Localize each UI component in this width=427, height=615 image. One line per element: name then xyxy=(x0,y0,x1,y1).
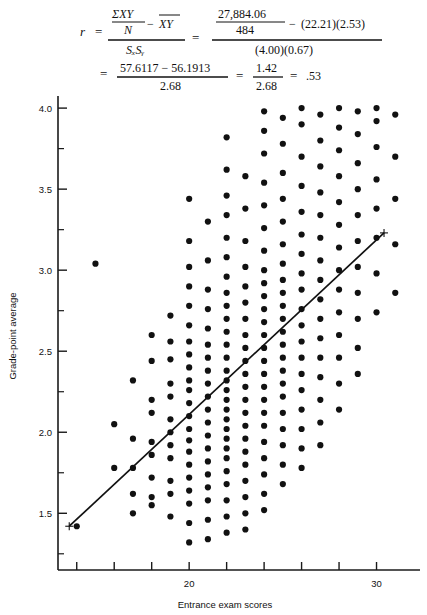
data-point xyxy=(355,238,361,244)
data-point xyxy=(261,128,267,134)
data-point xyxy=(392,241,398,247)
data-point xyxy=(242,423,248,429)
formula-numerator-expr: 57.6117 − 56.1913 xyxy=(120,61,210,75)
data-point xyxy=(149,502,155,508)
data-point xyxy=(242,264,248,270)
data-point xyxy=(298,322,304,328)
data-point xyxy=(317,316,323,322)
data-point xyxy=(280,303,286,309)
data-point xyxy=(261,108,267,114)
data-point xyxy=(336,332,342,338)
y-tick-label: 2.0 xyxy=(39,427,52,438)
data-point xyxy=(205,536,211,542)
data-point xyxy=(280,393,286,399)
data-point xyxy=(242,283,248,289)
data-point xyxy=(355,108,361,114)
data-point xyxy=(205,517,211,523)
formula-sum-xy: ΣXY xyxy=(111,7,134,21)
data-point xyxy=(149,397,155,403)
data-point xyxy=(280,410,286,416)
data-point xyxy=(186,283,192,289)
data-point xyxy=(111,465,117,471)
data-point xyxy=(242,410,248,416)
data-point xyxy=(355,186,361,192)
data-point xyxy=(317,189,323,195)
data-point xyxy=(280,141,286,147)
data-point xyxy=(205,355,211,361)
data-point xyxy=(149,452,155,458)
data-point xyxy=(242,526,248,532)
formula-minus-1: − xyxy=(147,17,154,31)
data-point xyxy=(317,277,323,283)
data-point xyxy=(317,111,323,117)
data-point xyxy=(317,397,323,403)
data-point xyxy=(130,436,136,442)
data-point xyxy=(186,364,192,370)
data-point xyxy=(224,329,230,335)
data-point xyxy=(261,180,267,186)
data-point xyxy=(280,442,286,448)
data-point xyxy=(392,196,398,202)
formula-equals-4: = xyxy=(236,68,243,83)
data-point xyxy=(261,267,267,273)
y-tick-label: 2.5 xyxy=(39,346,52,357)
data-point xyxy=(224,416,230,422)
data-point xyxy=(298,445,304,451)
data-point xyxy=(167,338,173,344)
data-point xyxy=(149,475,155,481)
axes-layer xyxy=(58,96,420,570)
data-point xyxy=(224,274,230,280)
data-point xyxy=(280,316,286,322)
data-point xyxy=(242,494,248,500)
data-point xyxy=(373,118,379,124)
data-point xyxy=(224,406,230,412)
data-point xyxy=(186,539,192,545)
data-point xyxy=(298,231,304,237)
data-point xyxy=(186,500,192,506)
data-point xyxy=(280,241,286,247)
data-point xyxy=(298,209,304,215)
data-point xyxy=(317,257,323,263)
formula-result: .53 xyxy=(306,69,321,83)
data-point xyxy=(280,381,286,387)
data-point xyxy=(261,507,267,513)
data-point xyxy=(336,244,342,250)
data-point xyxy=(280,290,286,296)
data-point xyxy=(205,497,211,503)
data-point xyxy=(224,212,230,218)
data-point xyxy=(317,374,323,380)
formula-equals-1: = xyxy=(95,24,102,39)
data-point xyxy=(317,419,323,425)
data-point xyxy=(186,264,192,270)
data-point xyxy=(205,368,211,374)
data-point xyxy=(224,368,230,374)
data-point xyxy=(280,261,286,267)
data-point xyxy=(242,238,248,244)
data-point xyxy=(224,426,230,432)
data-point xyxy=(186,449,192,455)
data-point xyxy=(298,387,304,393)
data-point xyxy=(186,338,192,344)
data-point xyxy=(298,121,304,127)
data-point xyxy=(224,134,230,140)
data-point xyxy=(186,322,192,328)
data-point xyxy=(355,131,361,137)
data-point xyxy=(355,160,361,166)
data-point xyxy=(261,471,267,477)
data-point xyxy=(280,218,286,224)
data-point xyxy=(130,510,136,516)
data-point xyxy=(373,270,379,276)
formula-equals-2: = xyxy=(192,30,199,45)
textbook-figure-page: r = ΣXY N − XY SₓSᵧ = 27,884.06 484 − (2… xyxy=(0,0,427,615)
data-point xyxy=(224,497,230,503)
data-point xyxy=(317,163,323,169)
data-point xyxy=(111,421,117,427)
data-point xyxy=(261,358,267,364)
data-point xyxy=(205,445,211,451)
data-point xyxy=(224,445,230,451)
data-point xyxy=(317,137,323,143)
data-point xyxy=(242,332,248,338)
data-point xyxy=(186,303,192,309)
data-point xyxy=(224,455,230,461)
data-point xyxy=(336,381,342,387)
